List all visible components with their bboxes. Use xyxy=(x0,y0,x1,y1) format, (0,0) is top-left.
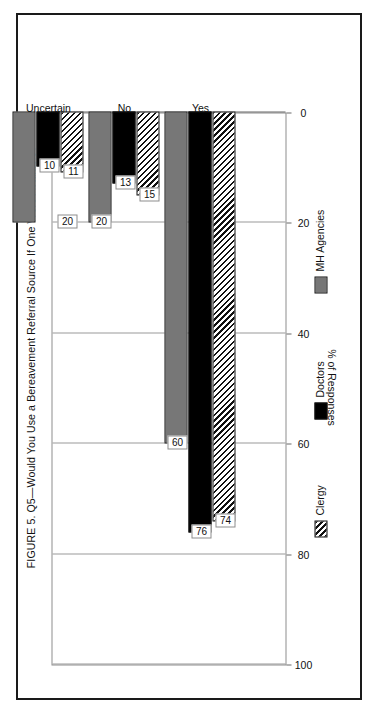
plot-area xyxy=(51,112,286,665)
bar-no-clergy xyxy=(136,111,159,195)
value-label-yes-mh: 60 xyxy=(167,435,187,449)
gridline-100 xyxy=(52,663,285,664)
bar-yes-clergy xyxy=(212,111,235,521)
bar-no-doctors xyxy=(112,111,135,183)
chart-canvas: FIGURE 5. Q5—Would You Use a Bereavement… xyxy=(16,13,362,700)
value-label-no-mh: 20 xyxy=(91,214,111,228)
bar-uncertain-clergy xyxy=(60,111,83,172)
value-label-uncertain-mh: 20 xyxy=(57,214,77,228)
category-label-no: No xyxy=(111,101,137,113)
value-label-no-clergy: 15 xyxy=(139,187,159,201)
value-label-yes-doctors: 76 xyxy=(191,524,211,538)
legend-label-clergy: Clergy xyxy=(313,485,325,515)
category-label-yes: Yes xyxy=(187,101,213,113)
value-label-no-doctors: 13 xyxy=(115,175,135,189)
legend-label-doctors: Doctors xyxy=(313,361,325,397)
bar-uncertain-mh xyxy=(12,111,35,222)
value-label-uncertain-clergy: 11 xyxy=(63,164,83,178)
gridline-80 xyxy=(52,553,285,554)
legend-swatch-doctors-icon xyxy=(314,402,327,419)
chart-legend: Clergy Doctors MH Agencies xyxy=(312,112,346,665)
figure-border: FIGURE 5. Q5—Would You Use a Bereavement… xyxy=(16,13,362,700)
category-label-uncertain: Uncertain xyxy=(23,101,73,113)
value-label-yes-clergy: 74 xyxy=(215,513,235,527)
legend-swatch-clergy-icon xyxy=(314,520,327,537)
value-label-uncertain-doctors: 10 xyxy=(39,158,59,172)
bar-no-mh xyxy=(88,111,111,222)
bar-yes-mh xyxy=(164,111,187,443)
legend-swatch-mh-agencies-icon xyxy=(314,276,327,293)
legend-label-mh-agencies: MH Agencies xyxy=(313,209,325,271)
bar-yes-doctors xyxy=(188,111,211,532)
